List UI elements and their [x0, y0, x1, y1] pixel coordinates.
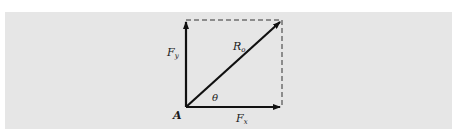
- ro-resultant-arrow: [186, 22, 280, 107]
- origin-text: A: [173, 109, 182, 122]
- vector-diagram: [0, 0, 458, 135]
- theta-angle-label: θ: [212, 93, 218, 103]
- ro-label-sub: o: [241, 46, 245, 54]
- fy-label-main: F: [167, 46, 175, 59]
- ro-label: Ro: [233, 41, 246, 54]
- theta-text: θ: [212, 92, 218, 103]
- fx-label-main: F: [236, 112, 244, 125]
- fy-label-sub: y: [175, 52, 179, 60]
- fy-label: Fy: [167, 47, 179, 60]
- origin-a-label: A: [173, 110, 182, 121]
- fx-label-sub: x: [244, 118, 248, 126]
- fx-label: Fx: [236, 113, 248, 126]
